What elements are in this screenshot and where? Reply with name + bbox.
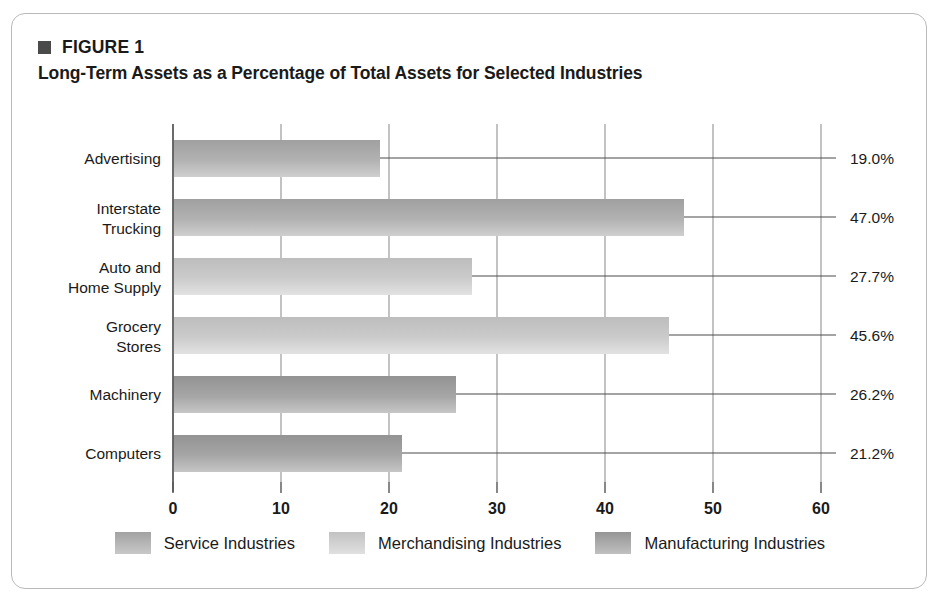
bar-advertising xyxy=(173,140,380,177)
category-label-interstate-trucking-line2: Trucking xyxy=(102,220,161,237)
value-label-auto-and-home-supply: 27.7% xyxy=(850,268,894,285)
category-label-computers: Computers xyxy=(85,445,161,462)
bar-auto-and-home-supply xyxy=(173,258,472,295)
category-label-machinery: Machinery xyxy=(90,386,162,403)
chart-legend: Service Industries Merchandising Industr… xyxy=(12,532,928,554)
legend-label-service-industries: Service Industries xyxy=(164,534,295,553)
value-label-machinery: 26.2% xyxy=(850,386,894,403)
legend-label-merchandising-industries: Merchandising Industries xyxy=(378,534,561,553)
x-axis-tick-labels: 0 10 20 30 40 50 60 xyxy=(169,500,830,517)
axis-ticks xyxy=(173,482,821,493)
value-labels: 19.0% 47.0% 27.7% 45.6% 26.2% 21.2% xyxy=(850,150,894,462)
x-tick-label-10: 10 xyxy=(272,500,290,517)
category-label-advertising: Advertising xyxy=(84,150,161,167)
legend-item-merchandising-industries: Merchandising Industries xyxy=(329,532,561,554)
x-tick-label-40: 40 xyxy=(596,500,614,517)
x-tick-label-50: 50 xyxy=(704,500,722,517)
category-label-interstate-trucking-line1: Interstate xyxy=(96,200,161,217)
bar-computers xyxy=(173,435,402,472)
legend-swatch-merchandising-industries xyxy=(329,532,365,554)
legend-swatch-service-industries xyxy=(115,532,151,554)
category-label-grocery-stores-line2: Stores xyxy=(116,338,161,355)
category-label-auto-and-home-supply-line2: Home Supply xyxy=(68,279,161,296)
x-tick-label-60: 60 xyxy=(812,500,830,517)
bars xyxy=(173,140,684,472)
value-label-grocery-stores: 45.6% xyxy=(850,327,894,344)
bar-interstate-trucking xyxy=(173,199,684,236)
value-label-computers: 21.2% xyxy=(850,445,894,462)
bar-grocery-stores xyxy=(173,317,669,354)
legend-item-service-industries: Service Industries xyxy=(115,532,295,554)
figure-panel: FIGURE 1 Long-Term Assets as a Percentag… xyxy=(11,13,927,589)
legend-item-manufacturing-industries: Manufacturing Industries xyxy=(595,532,825,554)
x-tick-label-20: 20 xyxy=(380,500,398,517)
category-labels: Advertising Interstate Trucking Auto and… xyxy=(68,150,161,462)
legend-label-manufacturing-industries: Manufacturing Industries xyxy=(644,534,825,553)
value-label-advertising: 19.0% xyxy=(850,150,894,167)
bar-chart-svg: Advertising Interstate Trucking Auto and… xyxy=(12,14,928,590)
value-label-interstate-trucking: 47.0% xyxy=(850,209,894,226)
legend-swatch-manufacturing-industries xyxy=(595,532,631,554)
x-tick-label-30: 30 xyxy=(488,500,506,517)
chart-plot-area: Advertising Interstate Trucking Auto and… xyxy=(12,14,928,590)
gridlines xyxy=(173,124,821,482)
category-label-grocery-stores-line1: Grocery xyxy=(106,318,161,335)
x-tick-label-0: 0 xyxy=(169,500,178,517)
category-label-auto-and-home-supply-line1: Auto and xyxy=(99,259,161,276)
bar-machinery xyxy=(173,376,456,413)
